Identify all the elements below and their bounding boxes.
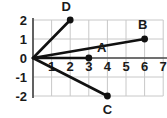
- point-label-b: B: [138, 17, 147, 32]
- y-tick-label: 0: [20, 51, 27, 66]
- x-tick-label: 4: [104, 59, 112, 74]
- x-tick-label: 6: [141, 59, 148, 74]
- x-tick-label: 7: [160, 59, 167, 74]
- point-label-c: C: [103, 102, 113, 117]
- y-tick-label: 1: [20, 32, 27, 47]
- x-tick-label: 5: [122, 59, 129, 74]
- data-point-c: [104, 93, 111, 100]
- y-tick-label: 2: [20, 13, 27, 28]
- data-point-d: [67, 17, 74, 24]
- point-label-d: D: [61, 0, 70, 14]
- y-axis-tick-labels: 210-1-2: [15, 13, 27, 104]
- x-tick-label: 2: [67, 59, 74, 74]
- y-tick-label: -2: [15, 89, 27, 104]
- point-label-a: A: [97, 40, 107, 55]
- data-point-a: [85, 55, 92, 62]
- coordinate-plane-figure: 1234567210-1-2ABCD: [0, 0, 167, 118]
- coordinate-plot-svg: 1234567210-1-2ABCD: [0, 0, 167, 118]
- y-tick-label: -1: [15, 70, 27, 85]
- x-axis-tick-labels: 1234567: [48, 59, 167, 74]
- data-point-b: [141, 36, 148, 43]
